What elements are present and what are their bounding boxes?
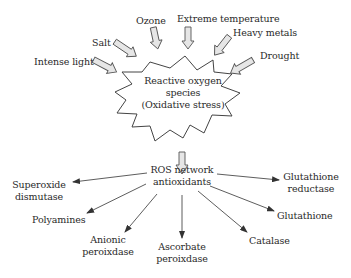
stressor-intense-light: Intense light: [34, 56, 94, 67]
center-line-2: species: [128, 87, 238, 99]
antioxidant-superoxide-dismutase: Superoxide dismutase: [10, 179, 68, 203]
block-arrow-icon: [111, 37, 139, 61]
antioxidant-polyamines: Polyamines: [32, 214, 85, 225]
ros-center-label: Reactive oxygen species (Oxidative stres…: [128, 75, 238, 111]
block-arrow-icon: [210, 33, 234, 59]
network-line-1: ROS network: [132, 164, 232, 176]
label-line: reductase: [280, 183, 342, 195]
stressor-heavy-metals: Heavy metals: [233, 27, 297, 38]
label-line: peroixdase: [152, 253, 212, 265]
label-line: dismutase: [10, 191, 68, 203]
label-line: Anionic: [78, 234, 138, 246]
label-line: peroixdase: [78, 246, 138, 258]
label-line: Glutathione: [280, 171, 342, 183]
network-line-2: antioxidants: [132, 176, 232, 188]
stressor-salt: Salt: [92, 37, 111, 48]
ros-network-label: ROS network antioxidants: [132, 164, 232, 188]
antioxidant-anionic-peroixdase: Anionic peroixdase: [78, 234, 138, 258]
label-line: Superoxide: [10, 179, 68, 191]
center-line-3: (Oxidative stress): [128, 99, 238, 111]
center-line-1: Reactive oxygen: [128, 75, 238, 87]
block-arrow-icon: [182, 27, 194, 49]
antioxidant-glutathione: Glutathione: [277, 210, 333, 221]
stressor-drought: Drought: [260, 50, 299, 61]
ros-diagram: [0, 0, 351, 278]
antioxidant-ascorbate-peroixdase: Ascorbate peroixdase: [152, 241, 212, 265]
antioxidant-glutathione-reductase: Glutathione reductase: [280, 171, 342, 195]
stressor-ozone: Ozone: [136, 15, 166, 26]
antioxidant-catalase: Catalase: [249, 235, 290, 246]
block-arrow-icon: [91, 54, 120, 77]
block-arrow-icon: [147, 26, 163, 50]
label-line: Ascorbate: [152, 241, 212, 253]
stressor-extreme-temperature: Extreme temperature: [177, 13, 279, 24]
